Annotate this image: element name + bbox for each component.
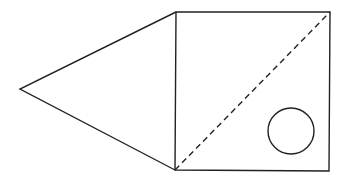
triangle-shape	[20, 12, 176, 170]
geometry-diagram	[0, 0, 349, 185]
circle-shape	[268, 108, 314, 154]
dashed-diagonal-line	[175, 12, 330, 170]
